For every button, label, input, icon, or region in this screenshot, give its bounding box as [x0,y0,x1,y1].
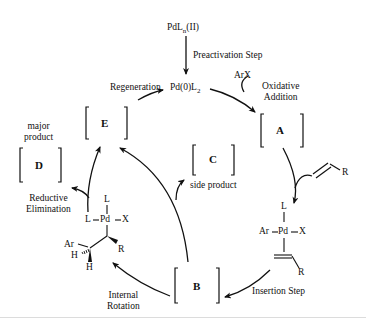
oxidative-addition-line2: Addition [262,92,299,103]
bracket-c-right [231,145,234,175]
bracket-b-left [175,268,178,303]
internal-rotation-line1: Internal [107,290,140,301]
active-catalyst-subscript: 2 [197,87,201,95]
oxidative-addition-line1: Oxidative [262,81,299,92]
bracket-b-right [216,268,219,303]
sigma-complex-l-left: L [85,214,91,224]
bracket-a-left [261,114,264,147]
major-product-line2: product [24,132,53,143]
a-to-pi-complex-arrow [283,148,296,203]
internal-rotation-line2: Rotation [107,301,140,312]
sigma-complex-x: X [122,214,129,224]
bracket-d-left [20,148,23,182]
pi-complex-l: L [281,201,287,211]
bottom-divider [0,317,366,318]
major-product-arrow [72,188,89,198]
reductive-elimination-line2: Elimination [26,204,71,215]
alkene-r-label: R [342,167,348,177]
bracket-a-right [300,114,303,147]
regeneration-label: Regeneration [110,82,161,93]
pi-complex-pd: Pd [278,226,288,236]
hash-bond-h [82,249,89,254]
intermediate-b: B [193,280,200,292]
wedge-r [107,236,118,244]
intermediate-c: C [209,153,217,165]
side-product-arrow [176,180,184,200]
bracket-e-left [86,107,89,139]
sigma-complex-r: R [118,244,124,254]
active-catalyst-formula: Pd(0)L [170,82,197,92]
sigma-complex-h2: H [86,262,93,272]
side-product-label: side product [190,180,237,191]
pi-complex-x: X [299,226,306,236]
internal-rotation-label: Internal Rotation [107,290,140,312]
precatalyst-oxidation-state: (II) [186,22,199,32]
oxidative-addition-arrow [210,89,255,112]
bracket-e-right [124,107,127,139]
oxidative-addition-label: Oxidative Addition [262,81,299,103]
reductive-elimination-arrow [88,147,100,212]
cycle-arrows [0,0,366,329]
main-arc-to-e [120,148,188,262]
preactivation-label: Preactivation Step [193,50,262,61]
precatalyst: PdLn(II) [167,22,199,35]
major-product-line1: major [24,121,53,132]
alkene-reagent [313,163,340,178]
intermediate-d: D [35,159,43,171]
insertion-step-label: Insertion Step [252,286,305,297]
intermediate-e: E [101,117,108,129]
bracket-c-left [193,145,196,175]
alkene-entry-curve [295,175,312,188]
arx-label: ArX [234,70,251,81]
pi-complex-r: R [298,267,304,277]
intermediate-a: A [276,124,284,136]
pi-complex-bonds [272,212,299,268]
sigma-complex-ar: Ar [64,239,74,249]
sigma-complex-pd: Pd [100,214,110,224]
pi-complex-ar: Ar [259,226,269,236]
bracket-d-right [58,148,61,182]
reductive-elimination-line1: Reductive [26,193,71,204]
precatalyst-formula: PdL [167,22,183,32]
sigma-complex-h1: H [71,250,78,260]
major-product-label: major product [24,121,53,143]
sigma-complex-l-top: L [104,194,110,204]
reductive-elimination-label: Reductive Elimination [26,193,71,215]
active-catalyst: Pd(0)L2 [170,82,200,95]
